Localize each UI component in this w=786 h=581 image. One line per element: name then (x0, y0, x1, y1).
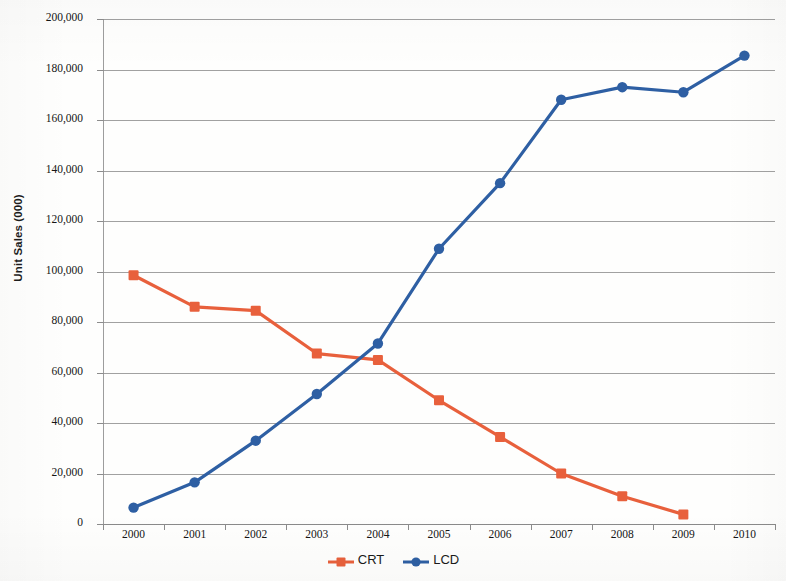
data-point-marker (373, 355, 383, 365)
y-axis-tick-label: 160,000 (0, 112, 83, 124)
series-line (134, 275, 684, 514)
legend-item-label: CRT (358, 552, 384, 567)
x-axis-tick-label: 2010 (714, 528, 774, 540)
legend: CRTLCD (0, 552, 786, 567)
data-point-marker (129, 270, 139, 280)
x-axis-tick-label: 2004 (348, 528, 408, 540)
legend-square-marker-icon (327, 554, 355, 566)
data-point-marker (312, 349, 322, 359)
x-axis-tick-label: 2006 (470, 528, 530, 540)
y-axis-tick-label: 120,000 (0, 213, 83, 225)
data-point-marker (678, 509, 688, 519)
series-lcd (128, 50, 749, 512)
data-point-marker (128, 502, 138, 512)
y-axis-tick-label: 40,000 (0, 415, 83, 427)
data-point-marker (190, 302, 200, 312)
gridline (103, 524, 775, 525)
y-axis-tick-label: 80,000 (0, 314, 83, 326)
data-point-marker (739, 50, 749, 60)
x-axis-tick-label: 2008 (592, 528, 652, 540)
legend-circle-marker-icon (402, 554, 430, 566)
y-axis-tick-label: 0 (0, 516, 83, 528)
data-point-marker (617, 82, 627, 92)
data-point-marker (678, 87, 688, 97)
x-axis-tick-label: 2009 (653, 528, 713, 540)
data-point-marker (251, 435, 261, 445)
y-axis-tick-label: 180,000 (0, 62, 83, 74)
x-axis-tick-label: 2005 (409, 528, 469, 540)
data-point-marker (617, 491, 627, 501)
x-axis-tick-label: 2003 (287, 528, 347, 540)
data-point-marker (495, 432, 505, 442)
x-axis-tick-label: 2000 (104, 528, 164, 540)
plot-area: 020,00040,00060,00080,000100,000120,0001… (103, 19, 775, 524)
y-axis-tick-label: 200,000 (0, 11, 83, 23)
y-axis-tick-label: 140,000 (0, 163, 83, 175)
legend-item-label: LCD (433, 552, 459, 567)
data-point-marker (556, 469, 566, 479)
data-point-marker (434, 244, 444, 254)
data-point-marker (189, 477, 199, 487)
x-axis-tick-label: 2007 (531, 528, 591, 540)
data-point-marker (556, 95, 566, 105)
y-axis-tick-label: 100,000 (0, 264, 83, 276)
y-axis-title: Unit Sales (000) (12, 168, 24, 308)
series-line (134, 56, 745, 508)
line-chart: Unit Sales (000) 020,00040,00060,00080,0… (0, 0, 786, 581)
legend-item-lcd[interactable]: LCD (402, 552, 459, 567)
data-point-marker (373, 338, 383, 348)
series-crt (129, 270, 689, 519)
data-point-marker (312, 389, 322, 399)
y-axis-tick-label: 20,000 (0, 466, 83, 478)
data-point-marker (434, 395, 444, 405)
data-point-marker (495, 178, 505, 188)
y-axis-tick-label: 60,000 (0, 365, 83, 377)
series-layer (103, 19, 775, 524)
x-axis-tick (775, 524, 776, 530)
x-axis-tick-label: 2001 (165, 528, 225, 540)
legend-item-crt[interactable]: CRT (327, 552, 384, 567)
x-axis-tick-label: 2002 (226, 528, 286, 540)
data-point-marker (251, 306, 261, 316)
